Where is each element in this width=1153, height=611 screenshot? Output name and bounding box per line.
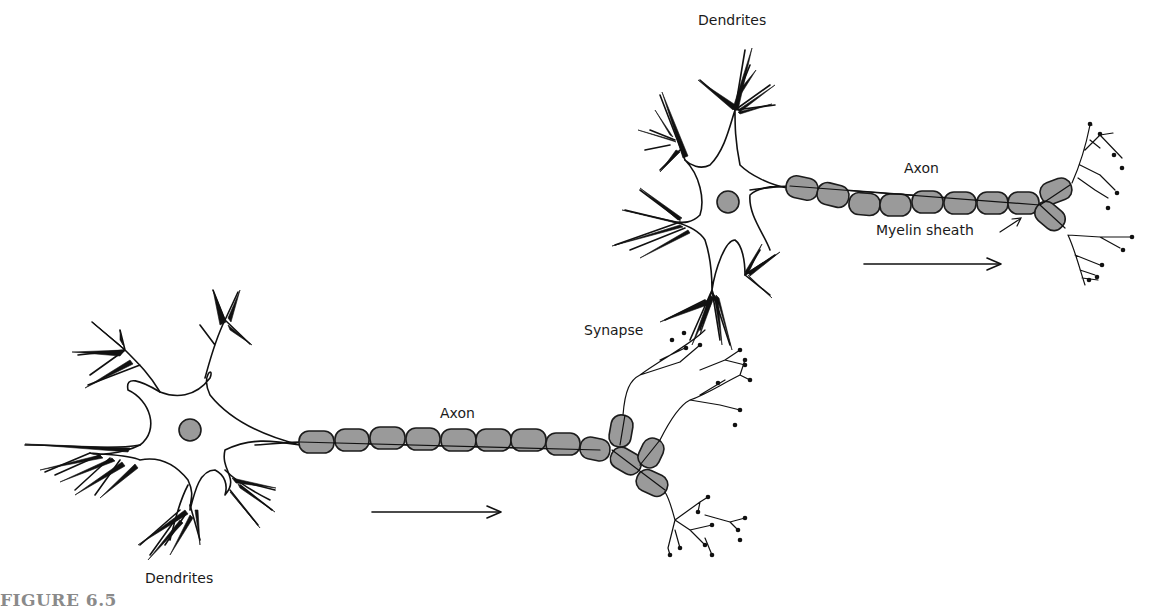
upper-neuron — [612, 48, 1134, 350]
upper-axon-terminals — [1068, 122, 1134, 285]
myelin-pointer-arrow-icon — [1000, 218, 1021, 232]
upper-dendrites — [612, 48, 780, 350]
lower-soma-outline — [90, 372, 300, 510]
upper-direction-arrow-icon — [864, 258, 1001, 270]
lower-direction-arrow-icon — [372, 506, 501, 518]
label-synapse: Synapse — [584, 322, 643, 338]
label-axon-upper: Axon — [904, 160, 939, 176]
label-dendrites-bottom: Dendrites — [145, 570, 213, 586]
figure-caption: FIGURE 6.5 — [0, 590, 117, 610]
neuron-diagram — [0, 0, 1153, 611]
label-myelin-sheath: Myelin sheath — [876, 222, 974, 238]
lower-nucleus — [179, 419, 201, 441]
lower-myelin-sheath — [299, 413, 671, 499]
label-dendrites-top: Dendrites — [698, 12, 766, 28]
upper-nucleus — [717, 191, 739, 213]
label-axon-lower: Axon — [440, 405, 475, 421]
